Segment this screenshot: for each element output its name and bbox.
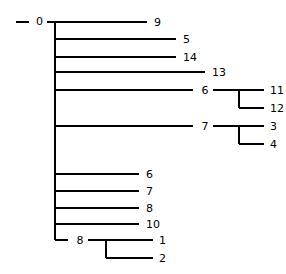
leaf-label-8: 8 (146, 202, 153, 215)
leaf-label-1: 5 (183, 33, 190, 46)
tree-diagram: 09514136111273467810812 (0, 0, 286, 274)
leaf-label-3: 13 (212, 66, 226, 79)
leaf-label-0: 9 (154, 16, 161, 29)
leaf-label-10-0: 1 (159, 234, 166, 247)
leaf-label-6: 6 (146, 168, 153, 181)
leaf-label-2: 14 (183, 51, 197, 64)
leaf-label-9: 10 (146, 218, 160, 231)
leaf-label-7: 7 (146, 185, 153, 198)
internal-node-label-10: 8 (77, 234, 84, 247)
leaf-label-10-1: 2 (159, 252, 166, 265)
internal-node-label-4: 6 (202, 84, 209, 97)
node-label-root: 0 (36, 15, 43, 28)
leaf-label-4-0: 11 (270, 84, 284, 97)
leaf-label-4-1: 12 (270, 102, 284, 115)
internal-node-label-5: 7 (202, 120, 209, 133)
leaf-label-5-0: 3 (270, 120, 277, 133)
leaf-label-5-1: 4 (270, 138, 277, 151)
